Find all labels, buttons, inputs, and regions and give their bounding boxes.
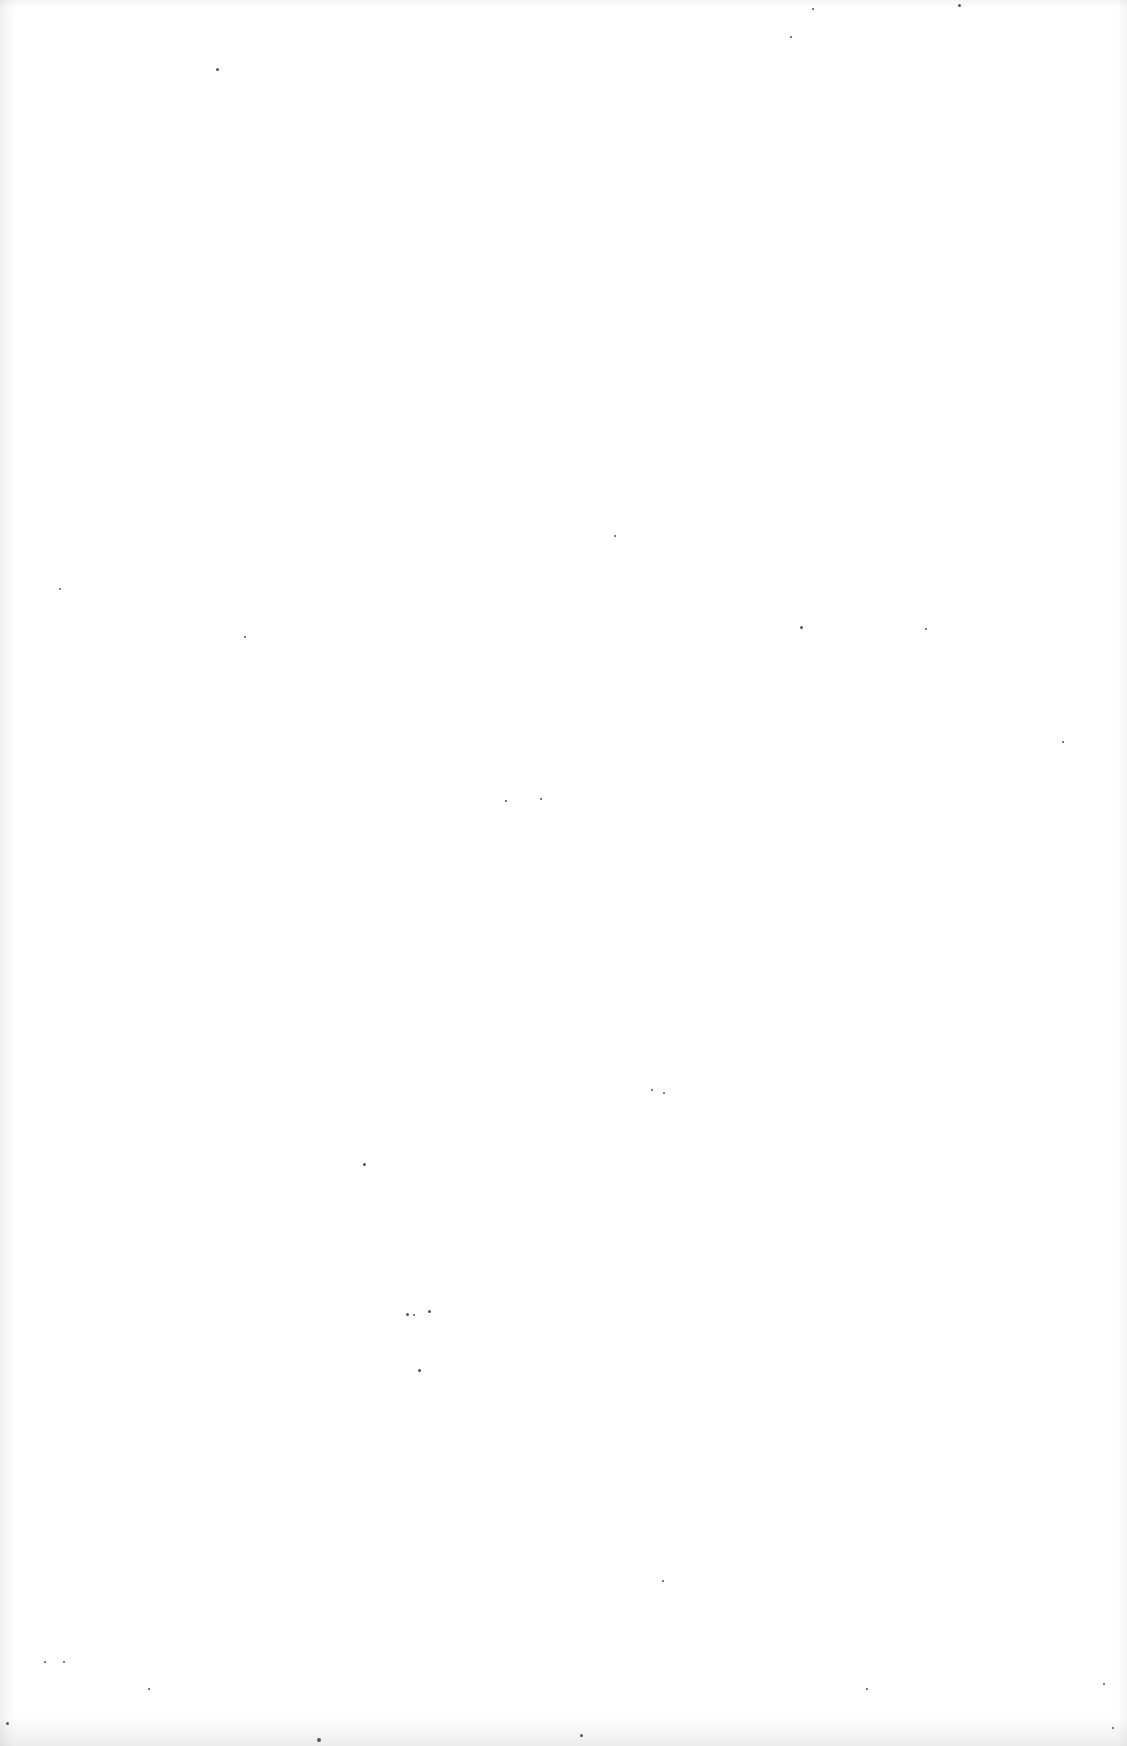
- scan-speck: [866, 1688, 868, 1690]
- scan-speck: [418, 1369, 421, 1372]
- scan-speck: [413, 1314, 415, 1316]
- scan-speck: [244, 636, 246, 638]
- scan-speck: [614, 535, 616, 537]
- scan-speck: [6, 1722, 9, 1725]
- scan-speck: [662, 1580, 664, 1582]
- scan-speck: [812, 8, 814, 10]
- scan-speck: [317, 1738, 321, 1742]
- scan-speck: [428, 1310, 431, 1313]
- scan-speck: [580, 1734, 583, 1737]
- scan-speck: [363, 1163, 366, 1166]
- scan-speck: [216, 68, 219, 71]
- scan-speck: [663, 1092, 665, 1094]
- scan-speck: [63, 1661, 65, 1663]
- scan-speck: [651, 1089, 653, 1091]
- scan-speck: [406, 1313, 409, 1316]
- scan-speck: [1112, 1727, 1114, 1729]
- scan-speck: [1062, 741, 1064, 743]
- scan-speck: [59, 588, 61, 590]
- scan-speck: [148, 1688, 150, 1690]
- scan-speck: [925, 628, 927, 630]
- scan-speck: [958, 4, 961, 7]
- scan-speck: [800, 626, 803, 629]
- scan-speck: [790, 36, 792, 38]
- scan-speck: [505, 800, 507, 802]
- scan-speck: [44, 1661, 46, 1663]
- scan-speck: [1103, 1683, 1105, 1685]
- blank-page: [0, 0, 1127, 1746]
- scan-speck: [540, 798, 542, 800]
